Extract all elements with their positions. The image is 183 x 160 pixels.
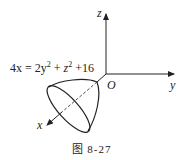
- x-axis-hidden: [62, 82, 97, 112]
- paraboloid-rim: [41, 80, 96, 138]
- origin-label: O: [107, 79, 116, 91]
- y-axis-label: y: [170, 79, 175, 91]
- figure-caption: 图 8-27: [0, 140, 183, 156]
- surface-equation: 4x = 2y2 + z2 +16: [10, 58, 94, 75]
- x-axis-visible: [97, 74, 106, 82]
- diagram-canvas: [0, 0, 183, 160]
- x-axis-label: x: [37, 119, 42, 131]
- z-axis-label: z: [97, 7, 102, 19]
